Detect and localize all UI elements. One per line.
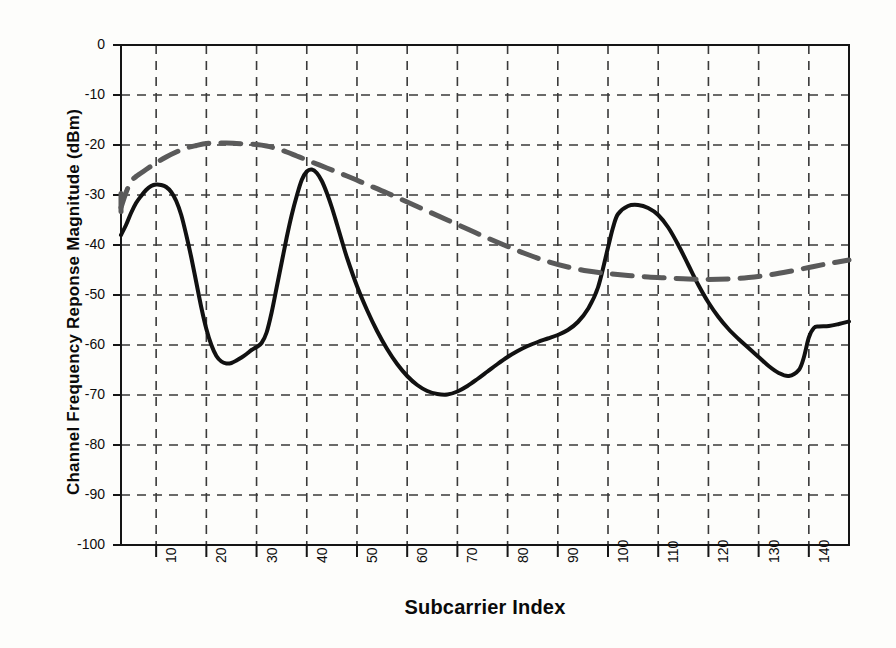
grid-lines — [121, 45, 849, 545]
x-tick-label: 70 — [464, 547, 480, 563]
series-measured-channel-response — [121, 169, 849, 394]
series-smoothed-channel-envelope — [121, 143, 849, 280]
plot-border — [121, 45, 849, 545]
x-tick-label: 100 — [615, 540, 631, 563]
x-tick-label: 130 — [766, 540, 782, 563]
x-tick-label: 140 — [816, 540, 832, 563]
x-tick-label: 110 — [665, 541, 681, 563]
plot-frame — [121, 45, 849, 545]
x-tick-label: 10 — [163, 547, 179, 563]
x-tick-label: 90 — [565, 547, 581, 563]
x-tick-label: 60 — [414, 547, 430, 563]
channel-response-plot — [0, 0, 896, 648]
x-tick-label: 50 — [364, 547, 380, 563]
x-tick-label: 40 — [314, 547, 330, 563]
x-tick-label: 30 — [264, 547, 280, 563]
chart-figure: 0-10-20-30-40-50-60-70-80-90-100 1020304… — [0, 0, 896, 648]
x-tick-label: 80 — [515, 547, 531, 563]
x-tick-label: 120 — [715, 540, 731, 563]
y-axis-title: Channel Frequency Reponse Magnitude (dBm… — [64, 42, 84, 562]
x-axis-title: Subcarrier Index — [121, 596, 849, 619]
axis-ticks — [113, 45, 809, 557]
x-tick-label: 20 — [213, 547, 229, 563]
data-series-layer — [121, 143, 849, 395]
